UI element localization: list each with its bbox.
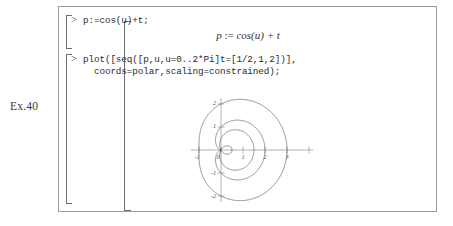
math-output-1: p := cos(u) + t — [73, 29, 423, 41]
input-prompt-1: > — [71, 14, 77, 25]
exercise-label: Ex.40 — [10, 100, 38, 112]
polar-plot-svg: -1 0 1 2 3 2 1 -1 -2 — [185, 92, 325, 204]
input-prompt-2: > — [71, 53, 77, 64]
x-tick-labels: -1 0 1 2 3 — [194, 153, 288, 160]
screenshot-root: Ex.40 > p:=cos(u)+t; p := cos(u) + t > p… — [0, 0, 453, 226]
y-tick-labels: 2 1 -1 -2 — [211, 99, 216, 199]
input-code-1[interactable]: p:=cos(u)+t; — [83, 15, 149, 27]
y-tick-label-2: -1 — [211, 169, 216, 176]
math-output-rhs: cos(u) + t — [236, 29, 279, 41]
y-tick-label-3: -2 — [211, 192, 216, 199]
execution-group-bracket-2[interactable] — [66, 54, 72, 204]
y-tick-label-1: 1 — [213, 122, 216, 129]
x-tick-label-2: 1 — [241, 153, 244, 160]
y-tick-label-0: 2 — [213, 99, 216, 106]
polar-plot[interactable]: -1 0 1 2 3 2 1 -1 -2 — [185, 92, 325, 204]
input-code-2[interactable]: plot([seq([p,u,u=0..2*Pi]t=[1/2,1,2])], … — [83, 54, 297, 79]
math-output-assign: := — [224, 29, 233, 41]
